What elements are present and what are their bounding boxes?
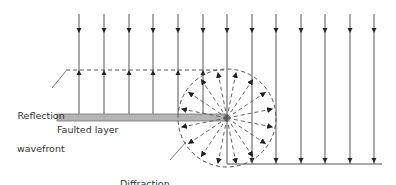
diffraction-label-line1: Diffraction <box>120 178 170 185</box>
diffraction-leader <box>170 142 186 160</box>
down-arrow-icon <box>77 28 82 33</box>
down-arrow-icon <box>250 28 255 33</box>
radial-arrow <box>227 92 265 118</box>
down-arrow-icon <box>151 28 156 33</box>
radial-arrow <box>201 80 227 118</box>
up-arrow-icon <box>176 70 181 75</box>
incident-rays <box>77 14 377 164</box>
down-arrow-icon <box>348 158 353 163</box>
up-arrow-icon <box>77 70 82 75</box>
reflection-wavefront <box>66 70 227 75</box>
down-arrow-icon <box>323 28 328 33</box>
down-arrow-icon <box>372 158 377 163</box>
down-arrow-icon <box>372 28 377 33</box>
up-arrow-icon <box>127 70 132 75</box>
down-arrow-icon <box>274 158 279 163</box>
down-arrow-icon <box>299 158 304 163</box>
radial-arrow <box>227 118 265 144</box>
down-arrow-icon <box>225 28 230 33</box>
down-arrow-icon <box>323 158 328 163</box>
reflection-label-line1: Reflection <box>17 110 65 121</box>
down-arrow-icon <box>348 28 353 33</box>
radial-arrow <box>201 118 227 156</box>
faulted-layer <box>57 114 227 121</box>
radial-arrow <box>227 118 253 156</box>
down-arrow-icon <box>201 28 206 33</box>
down-arrow-icon <box>299 28 304 33</box>
diffraction-wavefront-label: Diffraction wavefront <box>120 156 170 185</box>
up-arrow-icon <box>102 70 107 75</box>
faulted-layer-label: Faulted layer <box>57 124 119 135</box>
up-arrow-icon <box>201 70 206 75</box>
down-arrow-icon <box>274 28 279 33</box>
radial-arrow <box>189 118 227 144</box>
down-arrow-icon <box>176 28 181 33</box>
reflection-leader <box>52 71 66 88</box>
up-arrow-icon <box>151 70 156 75</box>
reflection-label-line2: wavefront <box>17 143 65 154</box>
down-arrow-icon <box>127 28 132 33</box>
fault-layer-rect <box>57 114 227 121</box>
down-arrow-icon <box>102 28 107 33</box>
radial-arrow <box>227 80 253 118</box>
